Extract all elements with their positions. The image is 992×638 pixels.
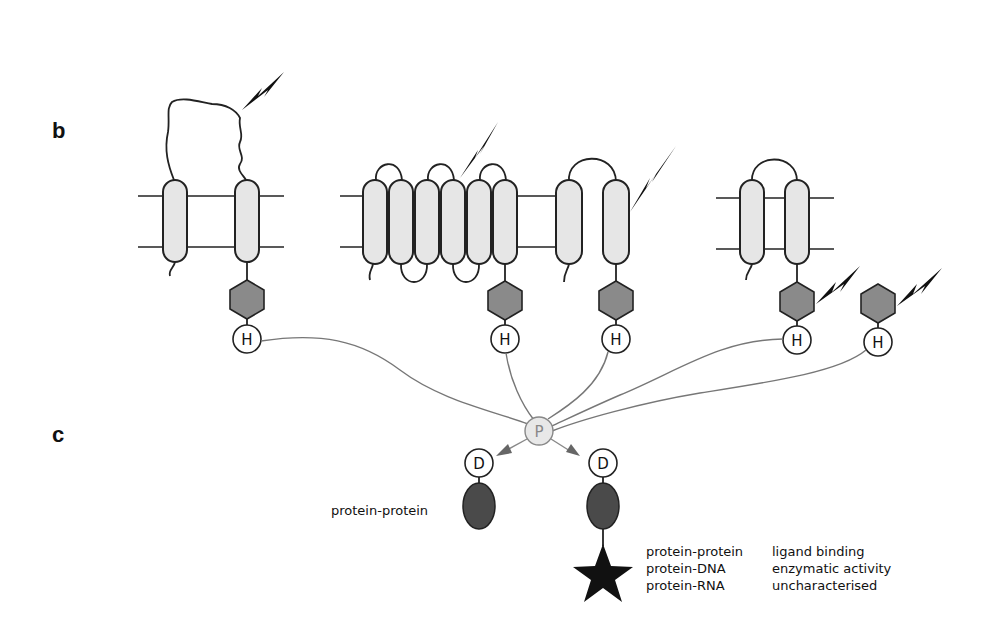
- transmembrane-helix: [603, 180, 629, 264]
- transmembrane-helix: [740, 180, 764, 264]
- interaction-item: protein-protein: [646, 544, 743, 559]
- lightning-bolt-icon: [242, 72, 284, 110]
- arrow-head-icon: [566, 444, 580, 456]
- histidine-label: H: [499, 331, 510, 349]
- transmembrane-helix: [441, 180, 465, 264]
- star-icon: [573, 544, 633, 602]
- output-domain: [463, 483, 495, 529]
- link-line: [506, 353, 534, 420]
- intracellular-tail: [746, 264, 752, 280]
- kinase-hexagon: [230, 280, 264, 319]
- lightning-bolt-icon: [630, 146, 676, 212]
- histidine-label: H: [610, 331, 621, 349]
- transmembrane-helix: [363, 180, 387, 264]
- panel-label-b: b: [52, 118, 65, 143]
- response-regulator-left: D protein-protein: [331, 449, 495, 529]
- link-line: [261, 338, 528, 424]
- transmembrane-helix: [389, 180, 413, 264]
- response-regulator-right: D: [573, 449, 633, 602]
- transmembrane-helix: [493, 180, 517, 264]
- intracellular-tail: [170, 262, 175, 276]
- intracellular-loop: [401, 264, 427, 282]
- output-caption: protein-protein: [331, 503, 428, 518]
- extracellular-loop: [376, 164, 402, 180]
- receptor-4: H: [716, 160, 860, 355]
- kinase-hexagon: [861, 284, 895, 323]
- panel-label-c: c: [52, 422, 64, 447]
- kinase-hexagon: [780, 282, 814, 321]
- signalling-diagram: b c H H: [0, 0, 992, 638]
- transmembrane-helix: [467, 180, 491, 264]
- arrow-head-icon: [496, 444, 512, 456]
- intracellular-tail: [564, 264, 569, 282]
- activity-item: ligand binding: [772, 544, 865, 559]
- histidine-label: H: [791, 332, 802, 350]
- transmembrane-helix: [415, 180, 439, 264]
- interaction-item: protein-RNA: [646, 578, 725, 593]
- receptor-2: H: [340, 122, 576, 353]
- transmembrane-helix: [556, 180, 582, 264]
- intracellular-loop: [453, 264, 479, 282]
- receiver-label: D: [473, 455, 485, 473]
- kinase-hexagon: [599, 281, 633, 320]
- histidine-label: H: [872, 334, 883, 352]
- link-line: [552, 350, 866, 431]
- output-list: protein-protein protein-DNA protein-RNA …: [646, 544, 892, 593]
- phosphotransfer-links: [261, 338, 866, 431]
- extracellular-loop: [166, 99, 246, 180]
- extracellular-loop: [480, 164, 506, 180]
- transmembrane-helix: [235, 180, 259, 262]
- receptor-5: H: [861, 268, 942, 356]
- receptor-3: H: [556, 146, 676, 353]
- histidine-label: H: [241, 331, 252, 349]
- receptor-1: H: [138, 72, 284, 353]
- receiver-label: D: [597, 455, 609, 473]
- output-domain: [587, 483, 619, 529]
- lightning-bolt-icon: [897, 268, 942, 306]
- kinase-hexagon: [488, 281, 522, 320]
- lightning-bolt-icon: [460, 122, 498, 178]
- lightning-bolt-icon: [816, 266, 860, 304]
- transmembrane-helix: [163, 180, 187, 262]
- extracellular-loop: [428, 164, 454, 180]
- extracellular-loop: [569, 159, 616, 182]
- link-line: [548, 352, 608, 419]
- activity-item: enzymatic activity: [772, 561, 892, 576]
- extracellular-loop: [752, 160, 797, 183]
- arrow-line: [551, 439, 570, 451]
- link-line: [552, 339, 783, 426]
- phosphotransfer-label: P: [534, 423, 543, 441]
- interaction-item: protein-DNA: [646, 561, 726, 576]
- activity-item: uncharacterised: [772, 578, 877, 593]
- transmembrane-helix: [785, 180, 809, 264]
- intracellular-tail: [369, 264, 373, 280]
